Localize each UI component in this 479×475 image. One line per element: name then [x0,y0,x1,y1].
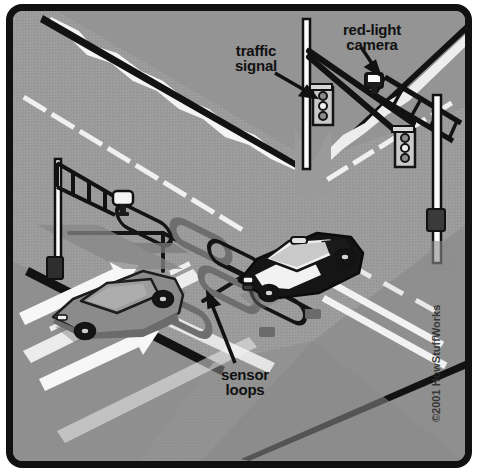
illustration-canvas: traffic signal red-light camera sensor l… [0,0,479,475]
label-sensor-loops: sensor loops [191,367,299,398]
traffic-signal-icon-1 [310,84,333,125]
label-red-light-camera: red-light camera [313,22,431,53]
loop-junction-box-1 [259,327,275,337]
label-traffic-signal: traffic signal [204,43,308,74]
traffic-signal-icon-2 [392,126,415,167]
loop-junction-box-2 [305,309,321,319]
illustration-frame: traffic signal red-light camera sensor l… [6,4,472,468]
copyright-notice: ©2001 HowStuffWorks [430,272,442,422]
